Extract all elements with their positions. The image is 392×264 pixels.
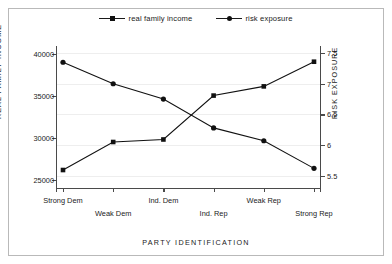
left-tick-label: 30000 xyxy=(33,133,54,142)
square-marker-icon xyxy=(262,84,267,89)
left-tick-label: 25000 xyxy=(33,175,54,184)
right-tick xyxy=(321,114,325,115)
x-tick-label: Strong Dem xyxy=(43,196,82,205)
circle-marker-icon xyxy=(211,125,216,130)
x-tick xyxy=(113,188,114,192)
circle-marker-icon xyxy=(261,138,266,143)
right-axis-line xyxy=(320,46,321,192)
legend-item-real-family-income: real family income xyxy=(99,14,192,23)
right-tick-label: 5.5 xyxy=(327,171,337,180)
x-tick xyxy=(163,188,164,192)
circle-marker-icon xyxy=(60,60,65,65)
left-axis-title: REAL FAMILY INCOME xyxy=(0,24,3,119)
x-tick xyxy=(214,188,215,192)
square-marker-icon xyxy=(161,137,166,142)
x-axis-title: PARTY IDENTIFICATION xyxy=(0,238,392,247)
x-tick-label: Strong Rep xyxy=(295,209,332,218)
x-tick-label: Weak Dem xyxy=(95,209,131,218)
legend-label-risk-exposure: risk exposure xyxy=(245,14,292,23)
plot-area: 25000300003500040000 5.566.577.5 Strong … xyxy=(57,50,320,188)
right-tick xyxy=(321,145,325,146)
right-tick xyxy=(321,176,325,177)
left-tick-label: 40000 xyxy=(33,50,54,59)
data-series xyxy=(57,50,320,188)
legend-label-real-family-income: real family income xyxy=(128,14,192,23)
right-tick-label: 6.5 xyxy=(327,110,337,119)
square-marker-icon xyxy=(312,59,317,64)
chart-legend: real family income risk exposure xyxy=(0,14,392,23)
square-marker-icon xyxy=(99,18,125,19)
square-marker-icon xyxy=(61,168,66,173)
x-tick-label: Weak Rep xyxy=(247,196,281,205)
legend-item-risk-exposure: risk exposure xyxy=(216,14,292,23)
square-marker-icon xyxy=(111,140,116,145)
right-tick xyxy=(321,84,325,85)
left-tick-label: 35000 xyxy=(33,92,54,101)
series-line-circle xyxy=(63,62,314,168)
x-tick-label: Ind. Dem xyxy=(148,196,178,205)
circle-marker-icon xyxy=(311,166,316,171)
x-axis-line xyxy=(57,188,320,189)
right-tick-label: 7 xyxy=(327,79,331,88)
right-tick-label: 6 xyxy=(327,141,331,150)
square-marker-icon xyxy=(211,93,216,98)
x-tick xyxy=(264,188,265,192)
x-tick-label: Ind. Rep xyxy=(200,209,228,218)
right-tick xyxy=(321,53,325,54)
circle-marker-icon xyxy=(161,96,166,101)
right-tick-label: 7.5 xyxy=(327,49,337,58)
chart-figure: real family income risk exposure REAL FA… xyxy=(0,0,392,264)
x-tick xyxy=(314,188,315,192)
x-tick xyxy=(63,188,64,192)
circle-marker-icon xyxy=(111,81,116,86)
circle-marker-icon xyxy=(216,18,242,19)
